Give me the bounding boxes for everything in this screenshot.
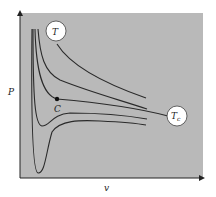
vdw-isotherm-diagram: C T Tc P v <box>0 0 216 197</box>
critical-point-marker <box>55 97 59 101</box>
critical-point-label: C <box>54 104 61 114</box>
temperature-label: T <box>52 27 59 37</box>
x-axis-label: v <box>104 183 109 193</box>
y-axis-label: P <box>7 87 15 97</box>
